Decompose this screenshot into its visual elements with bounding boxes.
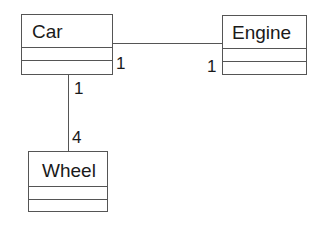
attributes-compartment — [22, 48, 112, 61]
multiplicity-car-wheel-target: 4 — [72, 129, 81, 146]
multiplicity-car-engine-source: 1 — [116, 55, 125, 72]
class-name: Wheel — [29, 152, 107, 187]
operations-compartment — [22, 61, 112, 74]
operations-compartment — [29, 200, 107, 213]
class-car[interactable]: Car — [21, 14, 113, 75]
attributes-compartment — [29, 187, 107, 200]
class-name: Engine — [223, 16, 306, 49]
class-wheel[interactable]: Wheel — [28, 151, 108, 212]
attributes-compartment — [223, 49, 306, 62]
class-name: Car — [22, 15, 112, 48]
operations-compartment — [223, 62, 306, 75]
association-car-wheel — [68, 74, 69, 151]
multiplicity-car-engine-target: 1 — [207, 58, 216, 75]
multiplicity-car-wheel-source: 1 — [74, 80, 83, 97]
association-car-engine — [112, 43, 222, 44]
class-engine[interactable]: Engine — [222, 15, 307, 75]
